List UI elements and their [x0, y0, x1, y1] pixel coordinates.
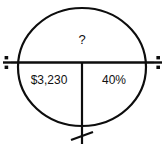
division-icon-left [3, 56, 11, 69]
bottom-right-cell-label: 40% [88, 74, 140, 86]
top-cell-label: ? [52, 33, 112, 46]
bottom-left-cell-label: $3,230 [20, 74, 78, 86]
percent-circle-diagram: ? $3,230 40% [0, 0, 165, 151]
division-icon-right [154, 56, 162, 69]
